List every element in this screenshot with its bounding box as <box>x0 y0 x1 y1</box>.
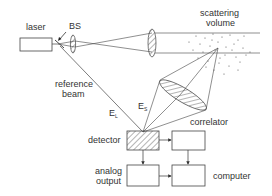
detector-label: detector <box>88 135 121 145</box>
laser-label: laser <box>26 22 46 32</box>
collection-lens <box>156 75 209 115</box>
analog-output-label-1: analog <box>95 166 122 176</box>
analog-output-box <box>127 165 159 186</box>
reference-beam-label-2: beam <box>62 89 85 99</box>
analog-output-label-2: output <box>96 176 122 186</box>
bs-lens <box>70 35 75 53</box>
scattering-particles <box>188 33 250 74</box>
scattering-volume-label-2: volume <box>206 18 235 28</box>
correlator-label: correlator <box>190 117 228 127</box>
e-local-subscript: L <box>115 113 118 119</box>
computer-label: computer <box>213 171 251 181</box>
detector-box <box>127 131 159 150</box>
focusing-lens <box>148 29 156 57</box>
scattering-volume-label-1: scattering <box>200 8 239 18</box>
optical-diagram: laser BS scattering volume reference bea… <box>0 0 272 196</box>
e-scattered-subscript: S <box>144 106 148 112</box>
reference-beam-label-1: reference <box>55 79 93 89</box>
correlator-box <box>172 131 205 150</box>
bs-label: BS <box>69 21 81 31</box>
computer-box <box>172 165 205 186</box>
laser-box <box>20 38 52 51</box>
